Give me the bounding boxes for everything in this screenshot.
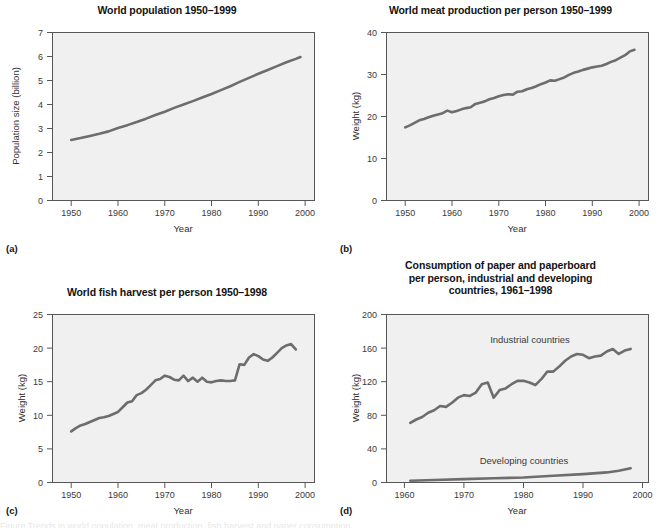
panel-b-ytick-20: 20 — [367, 112, 377, 122]
panel-d-annotation-industrial: Industrial countries — [490, 334, 570, 345]
panel-a-ytick-5: 5 — [38, 76, 43, 86]
panel-a-ytick-7: 7 — [38, 28, 43, 38]
caption-bleed: Figure Trends in world population, meat … — [0, 521, 667, 528]
panel-b-xtick-1970: 1970 — [489, 208, 509, 218]
panel-c-xtick-1990: 1990 — [248, 490, 268, 500]
panel-b-xtick-1980: 1980 — [535, 208, 555, 218]
panel-c-ytick-25: 25 — [33, 310, 43, 320]
panel-d-xtick-1960: 1960 — [394, 490, 414, 500]
panel-d-ytick-160: 160 — [362, 344, 377, 354]
panel-a-xtick-1980: 1980 — [201, 208, 221, 218]
panel-b-letter: (b) — [340, 243, 352, 254]
panel-b-ytick-30: 30 — [367, 70, 377, 80]
panel-d-xtick-1990: 1990 — [573, 490, 593, 500]
panel-a-xtick-1990: 1990 — [248, 208, 268, 218]
panel-b-title: World meat production per person 1950–19… — [334, 4, 667, 17]
four-panel-figure: World population 1950–1999 (a) 7 6 — [0, 0, 667, 528]
panel-a-xtick-1950: 1950 — [61, 208, 81, 218]
panel-a-ylabel: Population size (billion) — [10, 67, 21, 165]
panel-b-ytick-40: 40 — [367, 28, 377, 38]
panel-a-xtick-2000: 2000 — [295, 208, 315, 218]
panel-d-ytick-0: 0 — [372, 478, 377, 488]
panel-a-ytick-2: 2 — [38, 148, 43, 158]
panel-b-xtick-1960: 1960 — [442, 208, 462, 218]
panel-d-y-axis: 200 160 120 80 40 0 — [362, 310, 387, 488]
panel-c-y-axis: 25 20 15 10 5 0 — [33, 310, 53, 488]
panel-c-ytick-15: 15 — [33, 377, 43, 387]
panel-d-ylabel: Weight (kg) — [350, 374, 361, 422]
panel-d-plot: 200 160 120 80 40 0 1960 1970 1980 — [334, 300, 667, 526]
panel-a-plot: 7 6 5 4 3 2 1 0 1950 — [0, 18, 334, 244]
panel-b-x-axis: 1950 1960 1970 1980 1990 2000 — [395, 201, 649, 219]
panel-d-ytick-120: 120 — [362, 377, 377, 387]
panel-a-ytick-6: 6 — [38, 52, 43, 62]
panel-d-ytick-200: 200 — [362, 310, 377, 320]
panel-d-xtick-1980: 1980 — [513, 490, 533, 500]
panel-b: World meat production per person 1950–19… — [334, 0, 667, 264]
panel-c-xtick-1950: 1950 — [61, 490, 81, 500]
panel-b-ytick-10: 10 — [367, 154, 377, 164]
panel-d-ytick-80: 80 — [367, 411, 377, 421]
panel-a-y-axis: 7 6 5 4 3 2 1 0 — [38, 28, 53, 206]
panel-a-ytick-1: 1 — [38, 172, 43, 182]
panel-d-xtick-2000: 2000 — [632, 490, 652, 500]
panel-c: World fish harvest per person 1950–1998 … — [0, 264, 334, 528]
panel-b-plot: 40 30 20 10 0 1950 1960 1970 1980 — [334, 18, 667, 244]
panel-c-ytick-20: 20 — [33, 344, 43, 354]
panel-a-plot-frame — [53, 33, 315, 201]
panel-c-xlabel: Year — [173, 505, 192, 516]
panel-c-ytick-10: 10 — [33, 411, 43, 421]
panel-d-title: Consumption of paper and paperboard per … — [334, 259, 667, 297]
panel-a-ytick-3: 3 — [38, 124, 43, 134]
panel-c-title: World fish harvest per person 1950–1998 — [0, 286, 334, 299]
panel-b-ytick-0: 0 — [372, 196, 377, 206]
panel-a-ytick-0: 0 — [38, 196, 43, 206]
panel-c-xtick-1980: 1980 — [201, 490, 221, 500]
panel-c-plot-frame — [53, 315, 315, 483]
panel-b-plot-frame — [387, 33, 649, 201]
panel-d-ytick-40: 40 — [367, 444, 377, 454]
panel-d-annotation-developing: Developing countries — [480, 455, 569, 466]
panel-d-title-line-2: per person, industrial and developing — [334, 272, 667, 285]
panel-d-title-line-1: Consumption of paper and paperboard — [334, 259, 667, 272]
panel-d-xlabel: Year — [507, 505, 526, 516]
panel-c-ytick-0: 0 — [38, 478, 43, 488]
panel-b-xtick-1950: 1950 — [395, 208, 415, 218]
panel-c-ytick-5: 5 — [38, 444, 43, 454]
panel-a: World population 1950–1999 (a) 7 6 — [0, 0, 334, 264]
panel-c-xtick-2000: 2000 — [295, 490, 315, 500]
panel-d-x-axis: 1960 1970 1980 1990 2000 — [394, 483, 652, 501]
panel-b-y-axis: 40 30 20 10 0 — [367, 28, 387, 206]
panel-a-xtick-1970: 1970 — [155, 208, 175, 218]
panel-c-xtick-1960: 1960 — [108, 490, 128, 500]
panel-b-xtick-1990: 1990 — [582, 208, 602, 218]
panel-a-x-axis: 1950 1960 1970 1980 1990 2000 — [61, 201, 315, 219]
panel-c-x-axis: 1950 1960 1970 1980 1990 2000 — [61, 483, 315, 501]
panel-b-xtick-2000: 2000 — [629, 208, 649, 218]
panel-b-ylabel: Weight (kg) — [350, 92, 361, 140]
panel-d: Consumption of paper and paperboard per … — [334, 264, 667, 528]
panel-d-title-line-3: countries, 1961–1998 — [334, 284, 667, 297]
panel-c-plot: 25 20 15 10 5 0 1950 1960 1970 — [0, 300, 334, 526]
panel-c-xtick-1970: 1970 — [155, 490, 175, 500]
panel-b-xlabel: Year — [507, 223, 526, 234]
panel-a-title: World population 1950–1999 — [0, 4, 334, 17]
panel-c-ylabel: Weight (kg) — [16, 374, 27, 422]
panel-a-ytick-4: 4 — [38, 100, 43, 110]
panel-d-xtick-1970: 1970 — [454, 490, 474, 500]
panel-a-xlabel: Year — [173, 223, 192, 234]
panel-a-xtick-1960: 1960 — [108, 208, 128, 218]
panel-a-letter: (a) — [6, 243, 18, 254]
